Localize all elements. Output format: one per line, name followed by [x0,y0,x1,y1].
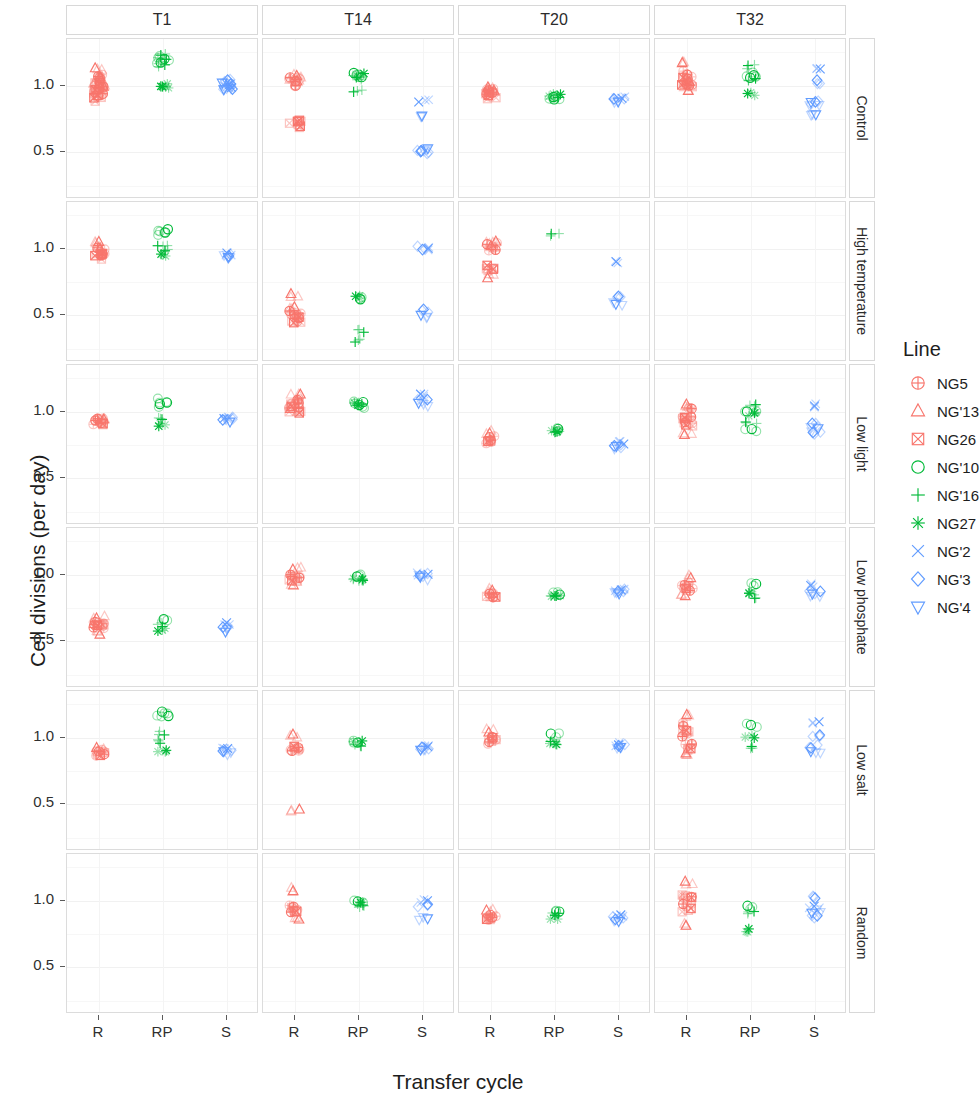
gridline-major [67,967,257,968]
data-point [350,398,360,408]
facet-row-label: Control [854,95,870,140]
facet-panel-T1-high-temperature [66,201,258,361]
y-tick-label: 1.0 [10,238,54,255]
panel-points [67,202,258,361]
x-tick-label: S [789,1023,839,1040]
legend-label: NG26 [937,431,976,448]
panel-points [459,528,650,687]
panel-points [67,691,258,850]
data-point [414,98,423,107]
panel-points [263,691,454,850]
x-tick-label: RP [137,1023,187,1040]
legend-item-NG26[interactable]: NG26 [903,425,979,453]
facet-row-label: Low light [854,416,870,471]
data-point [357,85,367,95]
panel-points [263,39,454,198]
gridline-vertical [99,854,100,1012]
legend: LineNG5NG'13NG26NG'10NG'16NG27NG'2NG'3NG… [903,338,979,621]
data-point [355,291,365,301]
x-tick-mark [554,1015,555,1020]
x-tick-label: S [593,1023,643,1040]
data-point [809,719,817,727]
y-tick-mark [60,477,65,478]
y-tick-mark [60,314,65,315]
legend-key-plus-icon [903,482,933,508]
data-point [285,119,293,127]
y-tick-mark [60,574,65,575]
gridline-vertical [815,202,816,360]
legend-item-NG27[interactable]: NG27 [903,509,979,537]
y-tick-label: 0.5 [10,630,54,647]
legend-key-diamond-open-icon [903,566,933,592]
facet-panel-T32-low-phosphate [654,527,846,687]
facet-panel-T32-low-salt [654,690,846,850]
legend-key-circle-plus-icon [903,370,933,396]
legend-key-circle-open-icon [903,454,933,480]
gridline-minor [67,934,257,935]
gridline-major [655,315,845,316]
y-tick-label: 1.0 [10,890,54,907]
panel-points [459,365,650,524]
data-point [747,741,757,751]
y-tick-mark [60,248,65,249]
facet-panel-T20-low-light [458,364,650,524]
legend-item-NG13[interactable]: NG'13 [903,397,979,425]
legend-item-NG4[interactable]: NG'4 [903,593,979,621]
data-point [295,804,305,813]
panel-points [263,365,454,524]
facet-panel-T20-control [458,38,650,198]
y-tick-mark [60,85,65,86]
facet-row-strip-control: Control [849,38,875,198]
legend-item-NG16[interactable]: NG'16 [903,481,979,509]
y-tick-label: 0.5 [10,304,54,321]
legend-key-triangle-up-icon [903,398,933,424]
y-tick-mark [60,966,65,967]
panel-points [263,854,454,1013]
legend-item-NG2[interactable]: NG'2 [903,537,979,565]
facet-panel-T14-control [262,38,454,198]
gridline-major [655,249,845,250]
data-point [549,89,559,99]
facet-panel-T1-low-light [66,364,258,524]
legend-label: NG'2 [937,543,971,560]
facet-panel-T32-random [654,853,846,1013]
y-tick-mark [60,151,65,152]
x-tick-mark [422,1015,423,1020]
data-point [162,79,172,89]
data-point [547,426,557,436]
x-tick-mark [490,1015,491,1020]
data-point [553,914,563,924]
panel-points [263,202,454,361]
data-point [554,229,564,239]
legend-item-NG3[interactable]: NG'3 [903,565,979,593]
y-tick-mark [60,737,65,738]
gridline-vertical [751,202,752,360]
facet-row-label: Random [854,907,870,960]
x-tick-mark [814,1015,815,1020]
data-point [545,739,555,749]
data-point [746,743,756,753]
x-tick-label: S [397,1023,447,1040]
x-tick-label: R [465,1023,515,1040]
legend-item-NG5[interactable]: NG5 [903,369,979,397]
gridline-minor [67,1001,257,1002]
facet-panel-T1-random [66,853,258,1013]
panel-points [459,691,650,850]
legend-item-NG10[interactable]: NG'10 [903,453,979,481]
x-tick-mark [686,1015,687,1020]
panel-points [655,528,846,687]
x-tick-mark [750,1015,751,1020]
facet-col-strip-T32: T32 [654,5,846,35]
data-point [160,747,170,757]
panel-points [459,854,650,1013]
panel-points [263,528,454,687]
x-tick-mark [162,1015,163,1020]
facet-row-label: Low phosphate [854,560,870,655]
facet-panel-T14-high-temperature [262,201,454,361]
facet-panel-T14-low-salt [262,690,454,850]
facet-panel-T1-control [66,38,258,198]
data-point [349,574,359,584]
data-point [158,625,168,635]
data-point [747,731,757,741]
facet-panel-T20-random [458,853,650,1013]
